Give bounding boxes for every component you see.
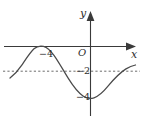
plot-curve bbox=[10, 46, 136, 98]
graph-figure: y x O −4 −2 −4 bbox=[0, 0, 143, 117]
graph-canvas bbox=[0, 0, 143, 117]
y-axis-arrowhead-icon bbox=[87, 11, 95, 21]
y-axis-label: y bbox=[80, 8, 86, 19]
x-tick-label-neg4: −4 bbox=[39, 49, 53, 59]
y-tick-label-neg4: −4 bbox=[76, 92, 90, 102]
x-axis-label: x bbox=[131, 49, 137, 60]
y-tick-label-neg2: −2 bbox=[76, 66, 90, 76]
origin-label: O bbox=[78, 48, 86, 58]
